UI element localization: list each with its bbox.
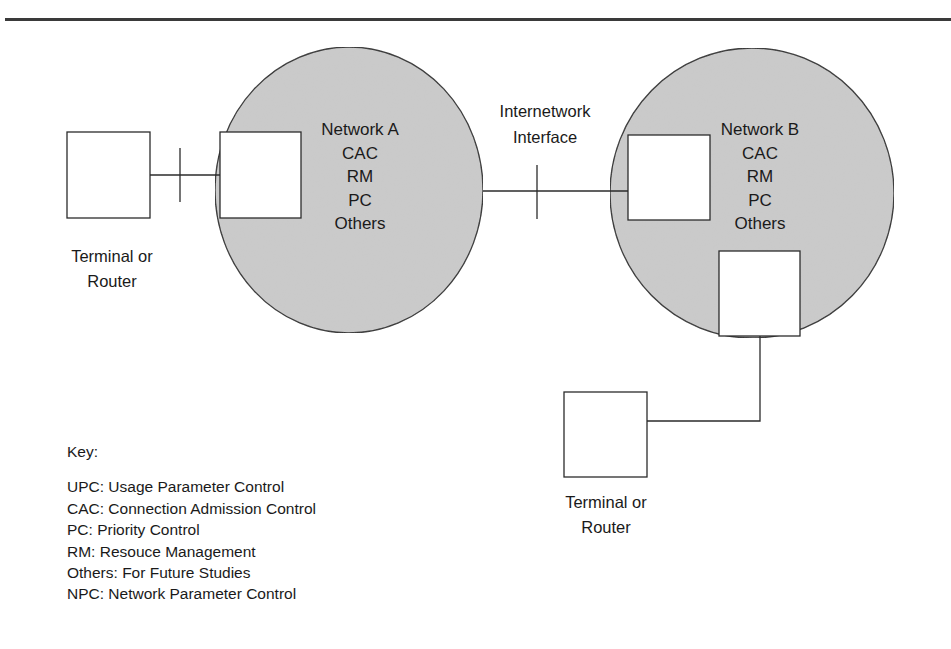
network-b-others: Others — [706, 212, 814, 236]
network-a-title: Network A — [306, 118, 414, 142]
key-entry-upc: UPC: Usage Parameter Control — [67, 476, 316, 497]
key-entry-rm: RM: Resouce Management — [67, 541, 316, 562]
network-b-labels: Network B CAC RM PC Others — [706, 118, 814, 236]
network-b-edge-node-box — [628, 135, 710, 220]
network-a-cac: CAC — [306, 142, 414, 166]
terminal-left-box — [67, 132, 150, 218]
key-entry-cac: CAC: Connection Admission Control — [67, 498, 316, 519]
terminal-left-label: Terminal or Router — [47, 244, 177, 294]
network-b-title: Network B — [706, 118, 814, 142]
terminal-bottom-label: Terminal or Router — [541, 490, 671, 540]
key-title: Key: — [67, 441, 316, 462]
terminal-bottom-label-line1: Terminal or — [541, 490, 671, 515]
terminal-bottom-label-line2: Router — [541, 515, 671, 540]
key-entry-pc: PC: Priority Control — [67, 519, 316, 540]
network-a-labels: Network A CAC RM PC Others — [306, 118, 414, 236]
internetwork-interface-label-line2: Interface — [470, 124, 620, 150]
network-b-rm: RM — [706, 165, 814, 189]
internetwork-interface-label: Internetwork Interface — [470, 98, 620, 150]
terminal-bottom-link — [647, 336, 760, 421]
terminal-bottom-box — [564, 392, 647, 477]
network-b-access-node-box — [719, 251, 800, 336]
network-b-cac: CAC — [706, 142, 814, 166]
network-a-edge-node-box — [220, 132, 301, 218]
key-entry-npc: NPC: Network Parameter Control — [67, 583, 316, 604]
network-a-pc: PC — [306, 189, 414, 213]
terminal-left-label-line2: Router — [47, 269, 177, 294]
terminal-left-label-line1: Terminal or — [47, 244, 177, 269]
internetwork-interface-label-line1: Internetwork — [470, 98, 620, 124]
network-b-pc: PC — [706, 189, 814, 213]
key-legend: Key: UPC: Usage Parameter Control CAC: C… — [67, 441, 316, 605]
key-entry-others: Others: For Future Studies — [67, 562, 316, 583]
network-a-others: Others — [306, 212, 414, 236]
network-a-rm: RM — [306, 165, 414, 189]
